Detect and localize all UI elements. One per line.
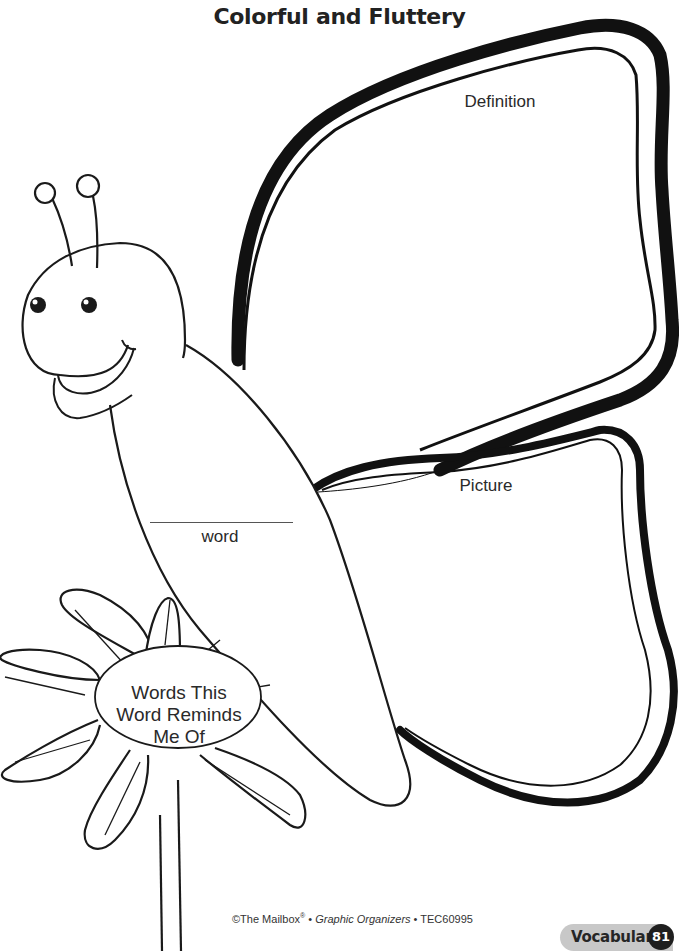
flower-center-line-1: Words This (104, 682, 254, 704)
right-eye-icon (81, 297, 97, 313)
separator-1: • (305, 913, 315, 925)
picture-label: Picture (436, 476, 536, 496)
butterfly-flower-illustration (0, 0, 679, 951)
definition-label: Definition (440, 92, 560, 112)
page-number: 81 (648, 924, 674, 950)
copyright-prefix: ©The Mailbox (232, 913, 300, 925)
word-write-line[interactable] (150, 522, 293, 523)
product-code: TEC60995 (420, 913, 473, 925)
book-title: Graphic Organizers (315, 913, 410, 925)
flower-center-line-2: Word Reminds (104, 704, 254, 726)
flower-center-line-3: Me Of (104, 726, 254, 748)
word-label: word (180, 527, 260, 547)
separator-2: • (411, 913, 421, 925)
left-eye-icon (30, 297, 46, 313)
flower-center-label: Words This Word Reminds Me Of (104, 682, 254, 748)
copyright-footer: ©The Mailbox® • Graphic Organizers • TEC… (232, 912, 473, 925)
